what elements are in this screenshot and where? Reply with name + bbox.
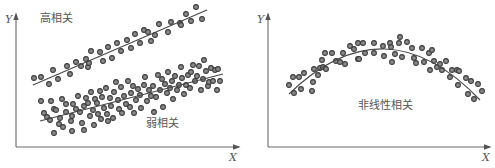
scatter-point <box>102 106 107 111</box>
scatter-point <box>381 44 386 49</box>
scatter-point <box>105 112 110 117</box>
scatter-point <box>119 85 124 90</box>
scatter-point <box>49 99 54 104</box>
scatter-point <box>163 82 168 87</box>
scatter-point <box>480 89 485 94</box>
scatter-point <box>115 41 120 46</box>
right-x-axis-label: X <box>481 151 491 164</box>
scatter-point <box>182 92 187 97</box>
scatter-point <box>147 88 152 93</box>
scatter-point <box>122 94 127 99</box>
scatter-point <box>95 101 100 106</box>
scatter-point <box>60 97 65 102</box>
scatter-point <box>297 75 302 80</box>
right-y-axis-label: Y <box>257 13 266 26</box>
scatter-point <box>54 108 59 113</box>
scatter-point <box>125 38 130 43</box>
scatter-point <box>52 131 57 136</box>
scatter-point <box>89 90 94 95</box>
scatter-point <box>106 45 111 50</box>
scatter-point <box>457 69 462 74</box>
scatter-point <box>139 106 144 111</box>
scatter-point <box>145 99 150 104</box>
scatter-point <box>136 87 141 92</box>
scatter-point <box>70 114 75 119</box>
scatter-point <box>114 80 119 85</box>
scatter-point <box>99 117 104 122</box>
scatter-point <box>89 49 94 54</box>
scatter-point <box>450 68 455 73</box>
scatter-point <box>398 35 403 40</box>
scatter-point <box>422 60 427 65</box>
scatter-point <box>61 125 66 130</box>
scatter-point <box>428 68 433 73</box>
scatter-point <box>405 40 410 45</box>
scatter-point <box>312 67 317 72</box>
scatter-point <box>211 79 216 84</box>
scatter-point <box>149 94 154 99</box>
scatter-point <box>154 95 159 100</box>
scatter-point <box>104 86 109 91</box>
scatter-point <box>128 105 133 110</box>
scatter-point <box>32 76 37 81</box>
scatter-point <box>68 72 73 77</box>
scatter-point <box>287 83 292 88</box>
scatter-point <box>184 12 189 17</box>
scatter-point <box>169 20 174 25</box>
scatter-point <box>119 49 124 54</box>
scatter-point <box>108 96 113 101</box>
scatter-point <box>299 87 304 92</box>
scatter-point <box>400 55 405 60</box>
scatter-point <box>96 112 101 117</box>
scatter-point <box>215 88 220 93</box>
scatter-point <box>372 51 377 56</box>
scatter-point <box>126 79 131 84</box>
scatter-point <box>397 41 402 46</box>
scatter-point <box>469 79 474 84</box>
scatter-point <box>464 76 469 81</box>
scatter-point <box>200 17 205 22</box>
scatter-point <box>393 52 398 57</box>
right-panel: Y X 非线性相关 <box>257 13 491 164</box>
scatter-point <box>138 41 143 46</box>
scatter-point <box>420 46 425 51</box>
scatter-point <box>143 75 148 80</box>
scatter-point <box>316 73 321 78</box>
scatter-point <box>175 88 180 93</box>
scatter-point <box>88 114 93 119</box>
scatter-point <box>111 116 116 121</box>
scatter-point <box>189 70 194 75</box>
scatter-point <box>173 74 178 79</box>
scatter-point <box>74 60 79 65</box>
scatter-point <box>199 88 204 93</box>
scatter-point <box>412 56 417 61</box>
scatter-point <box>338 60 343 65</box>
scatter-point <box>71 102 76 107</box>
scatter-point <box>132 111 137 116</box>
scatter-point <box>76 94 81 99</box>
scatter-point <box>51 68 56 73</box>
scatter-point <box>166 70 171 75</box>
nonlinear-correlation-label: 非线性相关 <box>358 98 413 112</box>
scatter-point <box>343 62 348 67</box>
scatter-point <box>430 48 435 53</box>
scatter-point <box>100 95 105 100</box>
scatter-point <box>39 75 44 80</box>
left-panel: Y X 高相关 弱相关 <box>5 5 239 164</box>
scatter-point <box>98 50 103 55</box>
scatter-point <box>133 32 138 37</box>
scatter-point <box>165 91 170 96</box>
scatter-point <box>302 71 307 76</box>
scatter-point <box>142 83 147 88</box>
scatter-point <box>382 54 387 59</box>
scatter-point <box>410 46 415 51</box>
scatter-point <box>146 30 151 35</box>
scatter-point <box>156 73 161 78</box>
scatter-point <box>152 110 157 115</box>
scatter-point <box>466 92 471 97</box>
scatter-point <box>352 47 357 52</box>
scatter-point <box>106 119 111 124</box>
scatter-point <box>84 96 89 101</box>
scatter-point <box>151 84 156 89</box>
scatter-point <box>180 76 185 81</box>
